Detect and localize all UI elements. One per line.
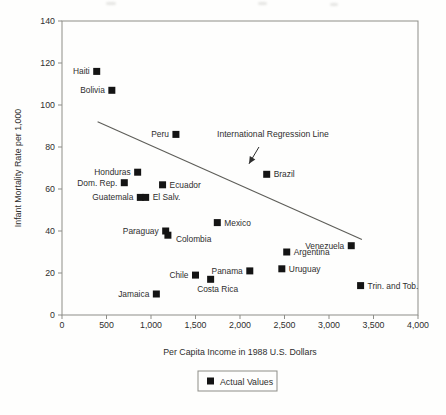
- data-point-label: Dom. Rep.: [77, 178, 117, 188]
- data-point-ecuador: [159, 181, 166, 188]
- data-point-label: Peru: [151, 129, 169, 139]
- y-tick-label: 20: [45, 268, 55, 278]
- data-point-honduras: [134, 169, 141, 176]
- y-tick-label: 100: [40, 100, 55, 110]
- scan-artifact: [330, 3, 338, 6]
- regression-line-annotation: International Regression Line: [217, 129, 329, 139]
- x-tick-label: 4,000: [407, 320, 429, 330]
- data-point-label: Haiti: [73, 66, 90, 76]
- data-point-label: Panama: [212, 266, 244, 276]
- x-tick-label: 1,500: [184, 320, 206, 330]
- data-point-label: Bolivia: [80, 85, 105, 95]
- data-point-el-salv: [142, 194, 149, 201]
- scan-artifact: [258, 2, 267, 5]
- data-point-label: Honduras: [94, 167, 130, 177]
- data-point-panama: [246, 267, 253, 274]
- data-point-trin-and-tob: [357, 282, 364, 289]
- y-tick-label: 80: [45, 142, 55, 152]
- annotation-arrowhead: [249, 156, 255, 164]
- data-point-label: El Salv.: [153, 192, 181, 202]
- y-tick-label: 60: [45, 184, 55, 194]
- x-tick-label: 3,500: [362, 320, 384, 330]
- data-point-peru: [172, 131, 179, 138]
- data-point-label: Brazil: [274, 169, 295, 179]
- chart-canvas: 02040608010012014005001,0001,5002,0002,5…: [0, 0, 446, 415]
- legend-marker-square: [207, 378, 214, 385]
- data-point-label: Chile: [169, 270, 188, 280]
- y-tick-label: 120: [40, 58, 55, 68]
- data-point-venezuela: [348, 242, 355, 249]
- y-axis-title: Infant Mortality Rate per 1,000: [13, 109, 23, 227]
- y-tick-label: 40: [45, 226, 55, 236]
- data-point-uruguay: [278, 265, 285, 272]
- data-point-colombia: [164, 232, 171, 239]
- y-tick-label: 0: [50, 310, 55, 320]
- y-tick-label: 140: [40, 16, 55, 26]
- data-point-label: Argentina: [294, 247, 330, 257]
- data-point-label: Costa Rica: [197, 284, 238, 294]
- data-point-label: Paraguay: [123, 226, 160, 236]
- data-point-dom-rep: [121, 179, 128, 186]
- x-tick-label: 500: [99, 320, 114, 330]
- legend-label: Actual Values: [220, 377, 274, 387]
- scan-artifact: [106, 2, 116, 5]
- x-tick-label: 1,000: [140, 320, 162, 330]
- data-point-jamaica: [153, 291, 160, 298]
- data-point-label: Ecuador: [170, 180, 201, 190]
- data-point-costa-rica: [207, 276, 214, 283]
- data-point-label: Guatemala: [92, 192, 133, 202]
- data-point-bolivia: [108, 87, 115, 94]
- data-point-label: Jamaica: [118, 289, 150, 299]
- x-tick-label: 2,500: [273, 320, 295, 330]
- data-point-label: Uruguay: [289, 264, 321, 274]
- data-point-label: Colombia: [176, 234, 212, 244]
- x-tick-label: 3,000: [318, 320, 340, 330]
- data-point-mexico: [214, 219, 221, 226]
- x-tick-label: 2,000: [229, 320, 251, 330]
- data-point-label: Trin. and Tob.: [368, 281, 419, 291]
- legend: Actual Values: [198, 371, 277, 391]
- data-point-chile: [192, 272, 199, 279]
- data-point-argentina: [283, 249, 290, 256]
- x-tick-label: 0: [60, 320, 65, 330]
- data-point-haiti: [93, 68, 100, 75]
- data-point-label: Mexico: [224, 218, 251, 228]
- data-point-brazil: [263, 171, 270, 178]
- scatter-chart-figure: 02040608010012014005001,0001,5002,0002,5…: [0, 0, 446, 415]
- x-axis-title: Per Capita Income in 1988 U.S. Dollars: [163, 347, 317, 357]
